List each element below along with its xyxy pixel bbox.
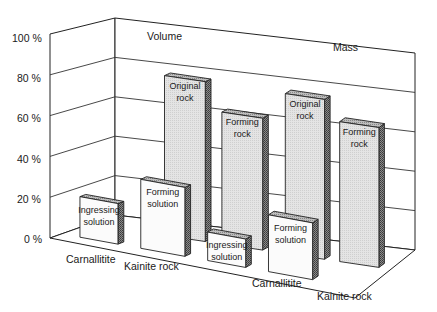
bar-label: Original	[289, 99, 320, 109]
ytick-100: 100 %	[12, 32, 42, 44]
category-label-kainite-mass: Kainite rock	[317, 290, 373, 302]
bar-label: solution	[211, 252, 242, 262]
panel-title-volume: Volume	[147, 30, 182, 42]
category-label-kainite-volume: Kainite rock	[124, 260, 180, 272]
y-axis-ticks: 100 % 80 % 60 % 40 % 20 % 0 %	[12, 32, 42, 245]
bar-label: solution	[275, 235, 306, 245]
bar-label: Forming	[226, 117, 259, 127]
bar-mass-forming-solution: Formingsolution	[268, 211, 318, 279]
bar-side	[313, 219, 319, 279]
bar-side	[379, 124, 384, 268]
bar-label: Forming	[343, 127, 376, 137]
bar-label: Ingressing	[78, 205, 120, 215]
bar-mass-ingressing-solution: Ingressingsolution	[206, 229, 251, 267]
ytick-0: 0 %	[24, 233, 42, 245]
bar-label: rock	[176, 93, 194, 103]
bar-label: rock	[234, 129, 252, 139]
bar-mass-forming-rock: Formingrock	[340, 118, 385, 268]
panel-title-mass: Mass	[333, 41, 358, 53]
ytick-40: 40 %	[17, 153, 41, 165]
category-label-carnallitite-mass: Carnallitite	[252, 277, 302, 289]
category-label-carnallitite-volume: Carnallitite	[66, 253, 116, 265]
bar-label: rock	[351, 139, 369, 149]
ytick-60: 60 %	[17, 112, 41, 124]
bar-volume-ingressing-solution: Ingressingsolution	[78, 194, 124, 244]
bar-side	[325, 96, 331, 259]
bar-label: rock	[296, 111, 314, 121]
bar-label: solution	[147, 199, 178, 209]
bar-label: solution	[83, 217, 114, 227]
bar-label: Forming	[274, 223, 307, 233]
chart-container: 100 % 80 % 60 % 40 % 20 % 0 % Volume Mas…	[0, 0, 437, 312]
bar-side	[205, 79, 211, 241]
bar-side	[185, 185, 191, 257]
bar-label: Ingressing	[206, 240, 248, 250]
ytick-80: 80 %	[17, 72, 41, 84]
bar-label: Original	[169, 81, 200, 91]
bar-label: Forming	[146, 187, 179, 197]
bar-side	[263, 115, 269, 250]
chart-3d-bar: 100 % 80 % 60 % 40 % 20 % 0 % Volume Mas…	[0, 0, 437, 312]
bar-volume-forming-solution: Formingsolution	[141, 177, 191, 257]
bar-volume-forming-rock: Formingrock	[222, 109, 268, 250]
ytick-20: 20 %	[17, 193, 41, 205]
